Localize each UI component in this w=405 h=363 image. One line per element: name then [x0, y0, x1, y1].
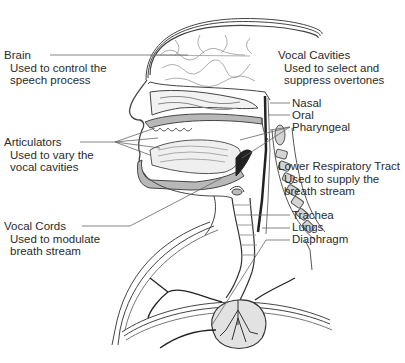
label-vocal-cavities: Vocal Cavities Used to select and suppre…: [278, 49, 384, 87]
label-nasal: Nasal: [292, 97, 321, 110]
label-brain-desc-1: Used to control the: [4, 62, 107, 75]
label-diaphragm: Diaphragm: [292, 233, 348, 246]
label-vocal-cords-title: Vocal Cords: [4, 220, 100, 233]
label-brain-title: Brain: [4, 49, 107, 62]
label-vocal-cavities-desc-1: Used to select and: [278, 62, 384, 75]
label-articulators-title: Articulators: [4, 136, 94, 149]
label-lower-respiratory-tract: Lower Respiratory Tract Used to supply t…: [278, 160, 400, 198]
label-vocal-cords-desc-1: Used to modulate: [4, 233, 100, 246]
label-brain-desc-2: speech process: [4, 74, 107, 87]
label-vocal-cords-desc-2: breath stream: [4, 245, 100, 258]
label-vocal-cords: Vocal Cords Used to modulate breath stre…: [4, 220, 100, 258]
label-pharyngeal: Pharyngeal: [292, 121, 350, 134]
label-oral: Oral: [292, 109, 314, 122]
label-lower-respiratory-title: Lower Respiratory Tract: [278, 160, 400, 173]
label-vocal-cavities-title: Vocal Cavities: [278, 49, 384, 62]
label-lungs: Lungs: [292, 221, 323, 234]
label-brain: Brain Used to control the speech process: [4, 49, 107, 87]
speech-anatomy-diagram: Brain Used to control the speech process…: [0, 0, 405, 363]
label-vocal-cavities-desc-2: suppress overtones: [278, 74, 384, 87]
label-articulators: Articulators Used to vary the vocal cavi…: [4, 136, 94, 174]
label-trachea: Trachea: [292, 209, 334, 222]
label-articulators-desc-1: Used to vary the: [4, 149, 94, 162]
label-lower-respiratory-desc-1: Used to supply the: [278, 173, 400, 186]
label-articulators-desc-2: vocal cavities: [4, 161, 94, 174]
label-lower-respiratory-desc-2: breath stream: [278, 185, 400, 198]
